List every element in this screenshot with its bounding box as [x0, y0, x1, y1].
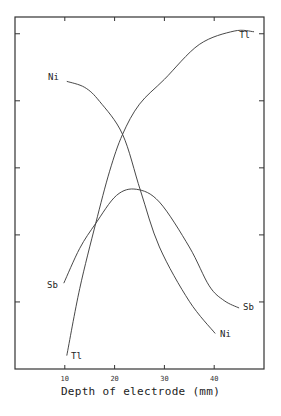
curve-sb [64, 189, 239, 308]
label-ni-start: Ni [48, 72, 59, 82]
curve-labels: TlTlNiNiSbSb [47, 30, 254, 361]
curves [64, 30, 254, 355]
curve-ni [67, 81, 215, 333]
x-tick-label: 40 [210, 375, 218, 383]
label-tl-end: Tl [239, 30, 250, 40]
label-sb-start: Sb [47, 280, 58, 290]
plot-border [15, 17, 264, 369]
label-tl-start: Tl [71, 351, 82, 361]
x-tick-label: 30 [160, 375, 168, 383]
axis-ticks [15, 17, 264, 369]
line-chart: 10203040 TlTlNiNiSbSb [0, 0, 281, 416]
plot-frame [15, 17, 264, 369]
label-sb-end: Sb [243, 302, 254, 312]
label-ni-end: Ni [220, 329, 231, 339]
x-tick-label: 20 [110, 375, 118, 383]
x-axis-label: Depth of electrode (mm) [0, 385, 281, 398]
x-tick-labels: 10203040 [61, 375, 219, 383]
curve-tl [67, 30, 254, 355]
x-tick-label: 10 [61, 375, 69, 383]
